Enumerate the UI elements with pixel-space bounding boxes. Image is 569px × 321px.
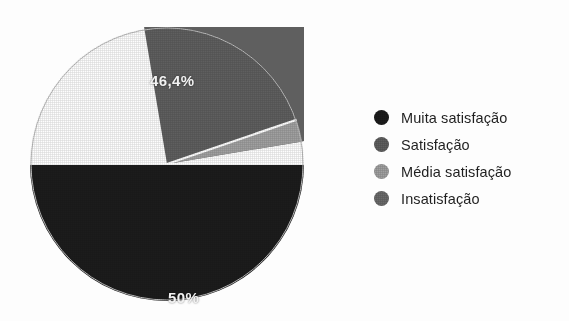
- legend-swatch-icon-insatisfacao: [374, 191, 389, 206]
- legend-label-insatisfacao: Insatisfação: [401, 191, 480, 207]
- legend-item-satisfacao[interactable]: Satisfação: [374, 131, 564, 158]
- pie-chart-graphic: 46,4% 50%: [30, 27, 304, 301]
- scan-noise-texture: [374, 191, 389, 206]
- pie-label-muita-satisfacao: 50%: [168, 289, 199, 306]
- scan-noise-texture: [374, 164, 389, 179]
- pie-chart-figure: 46,4% 50% Muita satisfação Satisfação Mé…: [0, 0, 569, 321]
- pie-svg: [30, 27, 304, 301]
- scan-noise-texture: [374, 110, 389, 125]
- legend-item-insatisfacao[interactable]: Insatisfação: [374, 185, 564, 212]
- legend-item-media-satisfacao[interactable]: Média satisfação: [374, 158, 564, 185]
- legend-swatch-icon-satisfacao: [374, 137, 389, 152]
- legend-item-muita-satisfacao[interactable]: Muita satisfação: [374, 104, 564, 131]
- legend-label-media-satisfacao: Média satisfação: [401, 164, 511, 180]
- legend-swatch-icon-media-satisfacao: [374, 164, 389, 179]
- legend-label-satisfacao: Satisfação: [401, 137, 470, 153]
- legend-swatch-icon-muita-satisfacao: [374, 110, 389, 125]
- chart-legend: Muita satisfação Satisfação Média satisf…: [374, 104, 564, 212]
- legend-label-muita-satisfacao: Muita satisfação: [401, 110, 507, 126]
- scan-noise-texture: [374, 137, 389, 152]
- pie-slice-muita-satisfacao[interactable]: [30, 164, 304, 301]
- pie-label-satisfacao: 46,4%: [150, 72, 195, 89]
